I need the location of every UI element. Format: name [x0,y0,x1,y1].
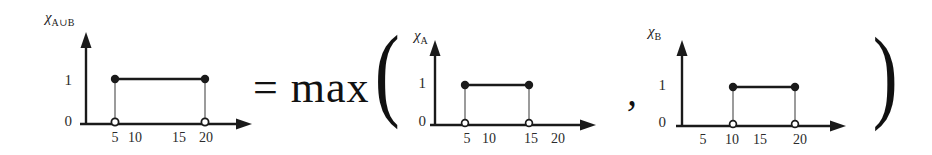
chart-chi-a-union-b: χA∪B 1 0 [0,0,250,155]
chart3-markers [729,83,799,128]
chart-chi-a: χA 1 0 5 10 [400,0,630,155]
chart2-chi-subscript: A [421,35,429,46]
chart2-xtick-20: 20 [547,132,569,146]
chart2-y-axis [430,40,441,125]
chart3-xtick-20: 20 [789,133,811,147]
chart3-x-axis [676,121,846,132]
chart1-y-axis-title: χA∪B [45,10,75,28]
chart3-chi-subscript: B [655,31,662,42]
argument-separator-comma: , [627,72,637,112]
chart1-xtick-20: 20 [195,131,217,145]
chart3-ytick-0: 0 [652,115,666,130]
chart2-step-line [465,85,529,122]
chart2-xtick-10: 10 [478,132,500,146]
chart3-y-axis [677,40,688,126]
chart1-xtick-5: 5 [104,131,126,145]
chart2-plot [400,0,630,155]
chart3-xtick-10: 10 [721,133,743,147]
chart3-ytick-1: 1 [652,78,666,93]
chart3-chi-symbol: χ [648,23,655,39]
chart3-step-line [733,87,795,123]
chart1-step-line [115,79,205,121]
chart2-ytick-1: 1 [412,76,426,91]
chart1-markers [111,75,209,126]
chart1-chi-symbol: χ [45,9,52,25]
max-operator-text: = max [253,66,370,110]
chart1-xtick-10: 10 [124,131,146,145]
chart3-xtick-15: 15 [749,133,771,147]
chart-chi-b: χB 1 0 5 10 [640,0,880,155]
chart1-y-axis [81,32,92,124]
chart2-xtick-15: 15 [520,132,542,146]
chart2-xtick-5: 5 [456,132,478,146]
chart1-xtick-15: 15 [168,131,190,145]
chart2-x-axis [430,120,596,131]
chart2-ytick-0: 0 [412,114,426,129]
chart2-markers [461,81,533,127]
close-paren: ) [873,22,898,126]
figure-canvas: χA∪B 1 0 [0,0,932,155]
chart3-xtick-5: 5 [692,133,714,147]
open-paren: ( [375,20,400,124]
chart1-x-axis [80,119,252,130]
chart1-ytick-0: 0 [58,114,72,129]
chart1-chi-subscript: A∪B [52,17,75,28]
chart3-y-axis-title: χB [648,24,662,42]
chart2-y-axis-title: χA [414,28,428,46]
chart2-chi-symbol: χ [414,27,421,43]
chart1-ytick-1: 1 [58,73,72,88]
